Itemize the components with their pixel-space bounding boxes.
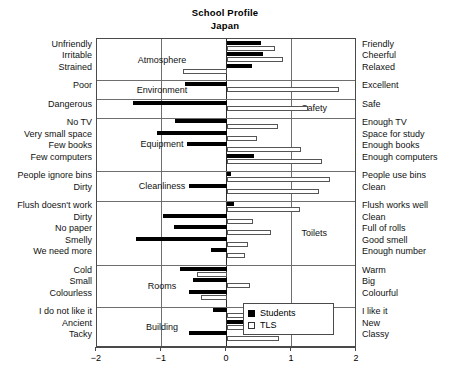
row-label-right: Friendly [362,39,450,49]
bar-students [227,41,261,45]
bar-tls [227,106,308,111]
row-label-right: Excellent [362,80,450,90]
x-axis-tick-label: 1 [279,353,303,363]
row-label-left: Ancient [0,318,92,328]
bar-students [187,142,227,146]
x-axis-tick [290,347,291,351]
x-axis-tick-label: −2 [84,353,108,363]
bar-students [136,237,227,241]
row-label-left: Dirty [0,212,92,222]
row-label-left: Irritable [0,50,92,60]
bar-tls [227,207,300,212]
row-label-right: Big [362,276,450,286]
bar-students [227,202,234,206]
row-label-left: Dangerous [0,99,92,109]
group-label-atmosphere: Atmosphere [97,55,227,65]
bar-students [185,82,227,86]
group-toilets: Toilets [97,201,355,265]
bar-students [174,225,227,229]
bar-tls [227,159,322,164]
bar-tls [227,87,339,92]
row-label-right: Clean [362,212,450,222]
bar-tls [227,57,283,62]
plot-area: AtmosphereEnvironmentSafetyEquipmentClea… [96,38,356,347]
x-axis-tick [95,347,96,351]
bar-students [193,278,227,282]
row-label-right: Safe [362,99,450,109]
chart-title: School Profile [0,7,450,18]
row-label-right: Warm [362,265,450,275]
x-axis-tick-label: −1 [149,353,173,363]
row-label-left: Few computers [0,152,92,162]
bar-students [227,64,252,68]
legend-item-students: Students [248,307,329,319]
row-label-right: Good smell [362,235,450,245]
row-label-left: Unfriendly [0,39,92,49]
bar-students [180,267,227,271]
bar-students [175,119,227,123]
bar-tls [227,283,250,288]
row-label-left: Smelly [0,235,92,245]
row-label-left: Strained [0,62,92,72]
row-label-right: I like it [362,306,450,316]
bar-tls [227,124,278,129]
row-label-left: No TV [0,117,92,127]
legend-swatch-students-icon [248,310,255,317]
row-label-right: People use bins [362,170,450,180]
bar-students [189,184,227,188]
row-label-left: Tacky [0,329,92,339]
bar-students [157,131,227,135]
bar-tls [227,136,257,141]
bar-tls [227,230,271,235]
bar-tls [227,46,275,51]
bar-students [227,172,231,176]
bar-students [189,331,227,335]
bar-tls [227,189,319,194]
x-axis-tick [160,347,161,351]
row-label-left: Dirty [0,182,92,192]
row-label-right: Classy [362,329,450,339]
chart-subtitle: Japan [0,20,450,31]
bar-students [163,214,227,218]
legend-swatch-tls-icon [248,322,255,329]
legend-label-students: Students [260,309,296,318]
school-profile-chart: School Profile Japan AtmosphereEnvironme… [0,0,450,389]
bar-students [189,290,227,294]
row-label-right: Enough TV [362,117,450,127]
bar-tls [227,242,248,247]
row-label-left: We need more [0,246,92,256]
bar-tls [227,219,253,224]
row-label-left: Cold [0,265,92,275]
x-axis-line [96,347,356,348]
row-label-right: Relaxed [362,62,450,72]
bar-students [133,101,227,105]
bar-students [213,308,227,312]
bar-tls [201,295,227,300]
row-label-right: Full of rolls [362,223,450,233]
group-label-environment: Environment [97,85,227,95]
row-label-left: Flush doesn't work [0,200,92,210]
bar-tls [183,69,227,74]
bar-tls [227,336,279,341]
x-axis-tick-label: 0 [214,353,238,363]
bar-tls [227,147,301,152]
group-atmosphere: Atmosphere [97,39,355,80]
bar-students [227,154,254,158]
row-label-left: Small [0,276,92,286]
bar-tls [227,177,330,182]
x-axis-tick [355,347,356,351]
row-label-right: Enough number [362,246,450,256]
bar-students [227,52,263,56]
row-label-right: Cheerful [362,50,450,60]
chart-legend: Students TLS [243,303,334,335]
row-label-left: Colourless [0,288,92,298]
row-label-right: Clean [362,182,450,192]
bar-students [211,248,227,252]
x-axis-tick-label: 2 [344,353,368,363]
row-label-right: Enough computers [362,152,450,162]
row-label-left: Very small space [0,129,92,139]
row-label-left: No paper [0,223,92,233]
legend-label-tls: TLS [260,321,277,330]
row-label-right: Flush works well [362,200,450,210]
row-label-left: I do not like it [0,306,92,316]
